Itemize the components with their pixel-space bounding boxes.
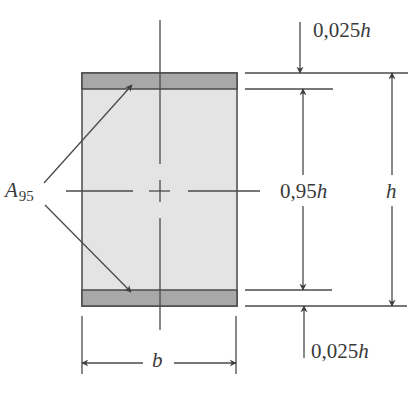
total-height-label: h [386,181,397,202]
top-cover-var: h [360,18,371,42]
top-cover-value: 0,025 [313,18,360,42]
bottom-cover-label: 0,025h [311,341,369,362]
area-label-subscript: 95 [19,188,34,204]
width-var: b [152,348,163,372]
width-label: b [152,350,163,371]
inner-height-var: h [317,179,328,203]
inner-height-value: 0,95 [280,179,317,203]
total-height-var: h [386,179,397,203]
top-cover-label: 0,025h [313,20,371,41]
inner-height-label: 0,95h [280,181,327,202]
bottom-cover-var: h [358,339,369,363]
area-label: A95 [5,180,34,204]
area-label-main: A [5,178,18,202]
bottom-cover-value: 0,025 [311,339,358,363]
